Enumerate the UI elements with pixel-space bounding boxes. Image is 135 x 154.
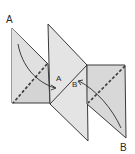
label-b-target: B (72, 81, 77, 89)
label-b-start: B (120, 143, 127, 153)
label-a-target: A (56, 75, 61, 83)
left-panel (12, 28, 50, 103)
folding-diagram (0, 0, 135, 154)
label-a-start: A (6, 15, 13, 25)
